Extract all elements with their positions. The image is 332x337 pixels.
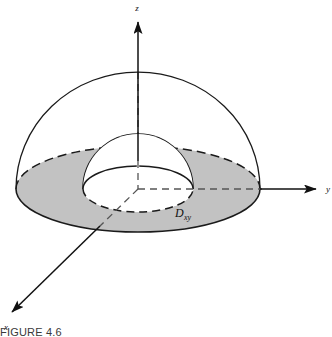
figure-caption: FIGURE 4.6 xyxy=(0,325,332,337)
z-axis-label: z xyxy=(134,3,139,13)
region-label-base: D xyxy=(174,206,184,220)
solid-region-diagram: z y x D xy xyxy=(0,0,332,337)
region-label-subscript: xy xyxy=(183,213,192,222)
figure-container: z y x D xy FIGURE 4.6 xyxy=(0,0,332,337)
y-axis-label: y xyxy=(325,184,330,194)
